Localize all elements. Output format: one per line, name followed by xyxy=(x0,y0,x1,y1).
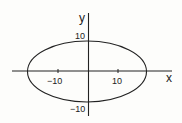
y-tick-label-10: 10 xyxy=(75,31,85,41)
x-axis-label: x xyxy=(166,71,172,85)
x-tick-label-10: 10 xyxy=(112,76,122,86)
x-tick-label-neg10: −10 xyxy=(47,76,62,86)
y-tick-label-neg10: −10 xyxy=(70,104,85,114)
y-axis-label: y xyxy=(79,11,85,25)
ellipse-chart: y x −10 10 10 −10 xyxy=(0,0,182,123)
